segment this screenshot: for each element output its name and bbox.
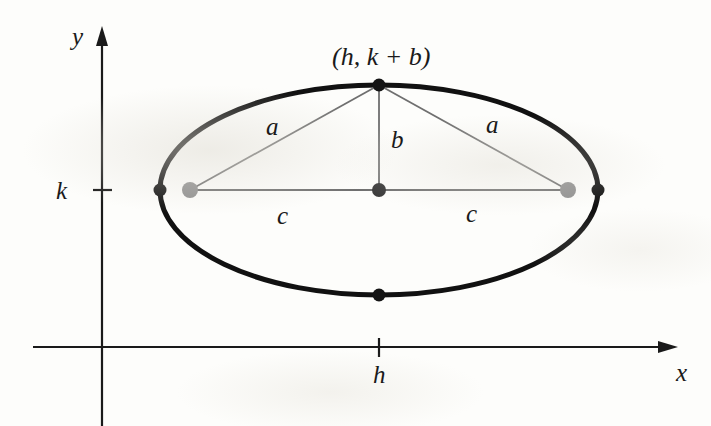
y-tick-label-k: k xyxy=(56,178,67,203)
y-axis-label: y xyxy=(72,24,83,49)
top-point-label: (h, k + b) xyxy=(332,44,430,70)
construction-segments xyxy=(190,85,568,190)
left-vertex-dot xyxy=(154,184,167,197)
bottom-vertex-dot xyxy=(373,289,386,302)
segment-c-left-label: c xyxy=(277,203,288,228)
segment-a-right-line xyxy=(379,85,568,190)
segment-c-right-label: c xyxy=(466,201,477,226)
segment-a-right-label: a xyxy=(486,112,499,137)
x-axis-label: x xyxy=(676,360,687,385)
right-focus-dot xyxy=(560,182,576,198)
x-tick-label-h: h xyxy=(373,362,386,387)
figure-canvas: (h, k + b) a a b c c h k x y xyxy=(0,0,711,426)
x-axis-arrowhead xyxy=(658,341,678,353)
right-vertex-dot xyxy=(592,184,605,197)
y-axis-arrowhead xyxy=(96,26,108,46)
top-vertex-dot xyxy=(373,79,386,92)
segment-b-label: b xyxy=(391,127,404,152)
segment-a-left-label: a xyxy=(266,114,279,139)
center-point-dot xyxy=(372,183,386,197)
segment-a-left-line xyxy=(190,85,379,190)
left-focus-dot xyxy=(182,182,198,198)
